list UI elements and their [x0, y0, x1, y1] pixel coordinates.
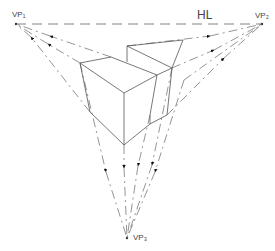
perspective-diagram: HL VP₁ VP₂ VP₃	[0, 0, 275, 251]
vp3-label: VP₃	[133, 233, 147, 242]
vp2-label: VP₂	[255, 11, 269, 20]
construction-lines	[16, 24, 262, 238]
stepped-box	[80, 40, 183, 145]
vp1-label: VP₁	[12, 10, 26, 19]
horizon-label: HL	[197, 8, 213, 22]
